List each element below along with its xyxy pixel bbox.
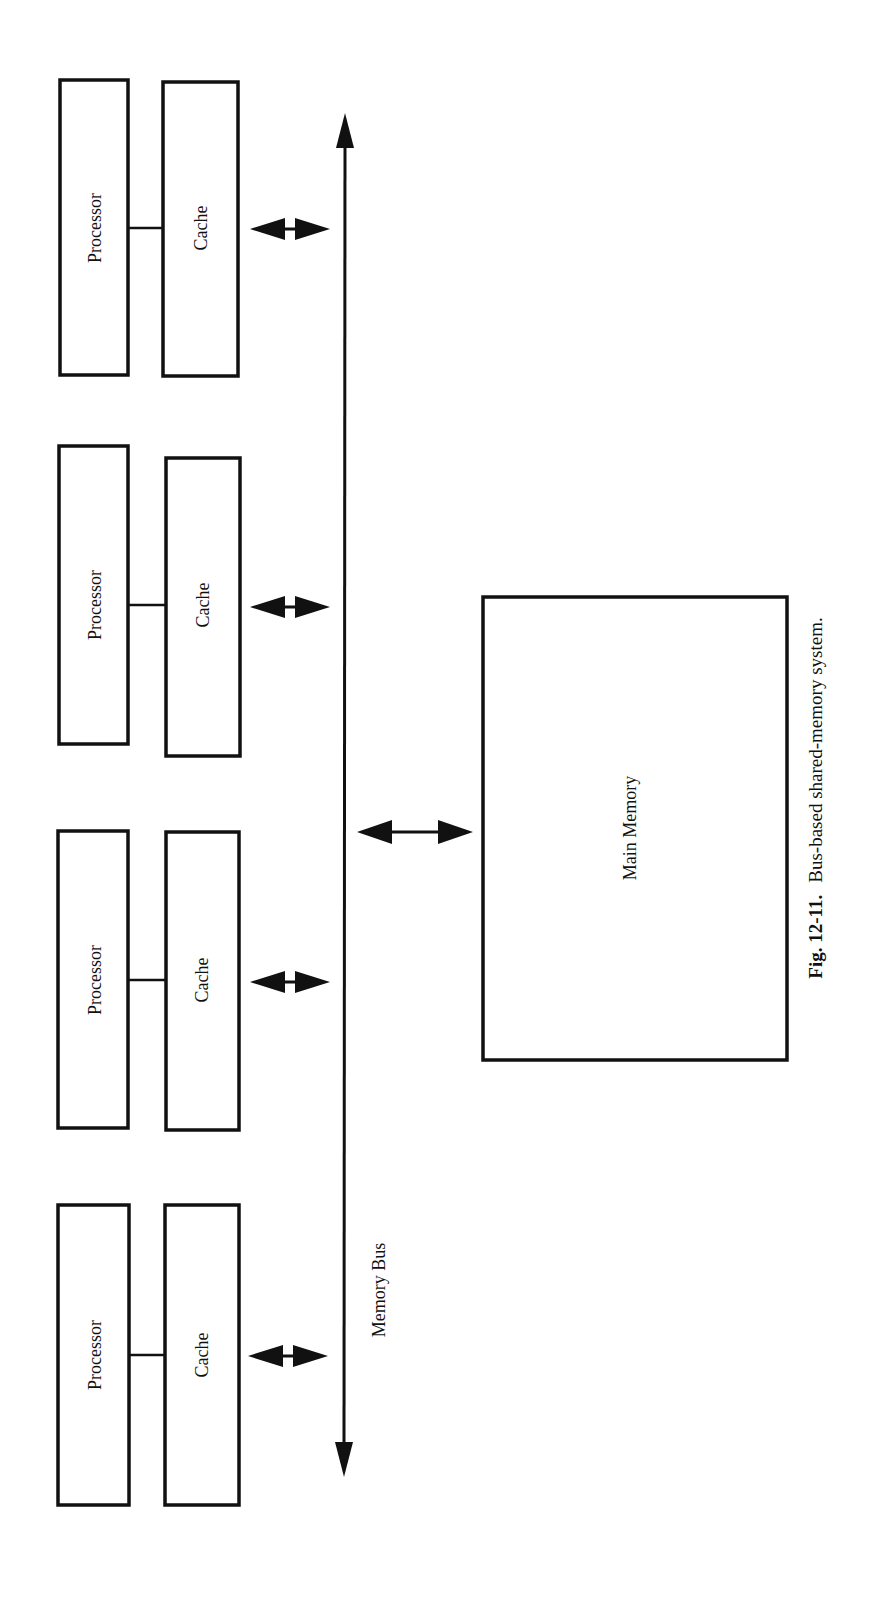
figure-title: Bus-based shared-memory system. [805,617,826,882]
cache-bus-arrow [248,1345,328,1367]
bus-shared-memory-diagram: Processor Cache Processor Cache Processo… [0,0,870,1601]
cache-label: Cache [193,583,213,628]
cache-label: Cache [192,1333,212,1378]
bus-memory-arrow [357,820,473,844]
processor-node: Processor Cache [58,1205,328,1505]
processor-node: Processor Cache [59,446,330,756]
processor-label: Processor [85,193,105,263]
cache-bus-arrow [250,971,330,993]
processor-node: Processor Cache [60,80,330,376]
main-memory: Main Memory [483,597,787,1060]
figure-caption: Fig. 12-11.Bus-based shared-memory syste… [805,617,826,978]
cache-label: Cache [191,206,211,251]
cache-bus-arrow [250,218,330,240]
processor-node: Processor Cache [58,831,330,1130]
cache-bus-arrow [250,596,330,618]
processor-label: Processor [85,570,105,640]
bus-arrowhead-top [336,113,354,148]
bus-arrowhead-bottom [335,1442,353,1477]
cache-label: Cache [192,958,212,1003]
processor-label: Processor [85,1320,105,1390]
figure-number: Fig. 12-11. [805,895,826,979]
processor-label: Processor [85,945,105,1015]
memory-bus: Memory Bus [335,113,389,1477]
main-memory-label: Main Memory [620,776,640,880]
memory-bus-line [344,140,345,1450]
memory-bus-label: Memory Bus [369,1243,389,1338]
